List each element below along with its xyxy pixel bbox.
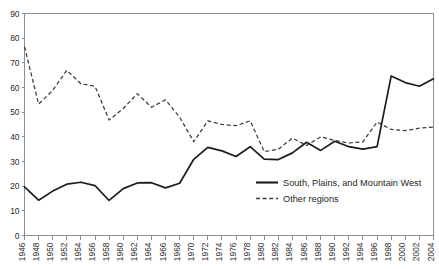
y-axis-group: 0102030405060708090 <box>10 9 24 241</box>
x-tick-label: 1986 <box>299 242 309 261</box>
x-tick-label: 1990 <box>327 242 337 261</box>
x-tick-label: 1950 <box>45 242 55 261</box>
x-tick-label: 1972 <box>200 242 210 261</box>
chart-container: 0102030405060708090 19461948195019521954… <box>0 0 439 269</box>
x-tick-label: 1978 <box>242 242 252 261</box>
x-axis-group: 1946194819501952195419561958196019621964… <box>17 236 436 262</box>
x-tick-label: 1998 <box>383 242 393 261</box>
series-line-other-regions <box>25 47 434 152</box>
x-tick-label: 1956 <box>87 242 97 261</box>
x-tick-label: 1994 <box>355 242 365 261</box>
x-tick-label: 1962 <box>129 242 139 261</box>
legend: South, Plains, and Mountain West Other r… <box>256 178 422 204</box>
y-tick-label: 0 <box>15 231 20 241</box>
x-tick-label: 1970 <box>186 242 196 261</box>
x-tick-label: 1946 <box>17 242 27 261</box>
x-tick-label: 1996 <box>369 242 379 261</box>
y-axis-tick-labels: 0102030405060708090 <box>10 9 20 241</box>
line-chart: 0102030405060708090 19461948195019521954… <box>0 0 439 269</box>
y-tick-label: 90 <box>10 9 20 19</box>
x-tick-label: 1992 <box>341 242 351 261</box>
y-tick-label: 10 <box>10 206 20 216</box>
legend-label-solid: South, Plains, and Mountain West <box>283 178 422 188</box>
x-tick-label: 2002 <box>411 242 421 261</box>
x-tick-label: 1984 <box>284 242 294 261</box>
x-tick-label: 1960 <box>115 242 125 261</box>
x-tick-label: 1948 <box>31 242 41 261</box>
x-tick-label: 1966 <box>158 242 168 261</box>
x-tick-label: 1976 <box>228 242 238 261</box>
legend-label-dashed: Other regions <box>283 194 339 204</box>
x-tick-label: 1954 <box>73 242 83 261</box>
plot-border-right <box>25 13 435 236</box>
x-axis-tick-labels: 1946194819501952195419561958196019621964… <box>17 242 436 261</box>
x-tick-label: 1980 <box>256 242 266 261</box>
x-tick-label: 2004 <box>426 242 436 261</box>
x-tick-label: 1958 <box>101 242 111 261</box>
y-tick-label: 80 <box>10 33 20 43</box>
y-tick-label: 50 <box>10 107 20 117</box>
x-tick-label: 1988 <box>313 242 323 261</box>
y-tick-label: 60 <box>10 83 20 93</box>
x-tick-label: 2000 <box>397 242 407 261</box>
x-axis-ticks <box>25 236 434 240</box>
x-tick-label: 1968 <box>172 242 182 261</box>
x-tick-label: 1974 <box>214 242 224 261</box>
y-tick-label: 40 <box>10 132 20 142</box>
x-tick-label: 1952 <box>59 242 69 261</box>
y-tick-label: 30 <box>10 157 20 167</box>
x-tick-label: 1964 <box>143 242 153 261</box>
y-tick-label: 20 <box>10 181 20 191</box>
y-tick-label: 70 <box>10 58 20 68</box>
x-tick-label: 1982 <box>270 242 280 261</box>
